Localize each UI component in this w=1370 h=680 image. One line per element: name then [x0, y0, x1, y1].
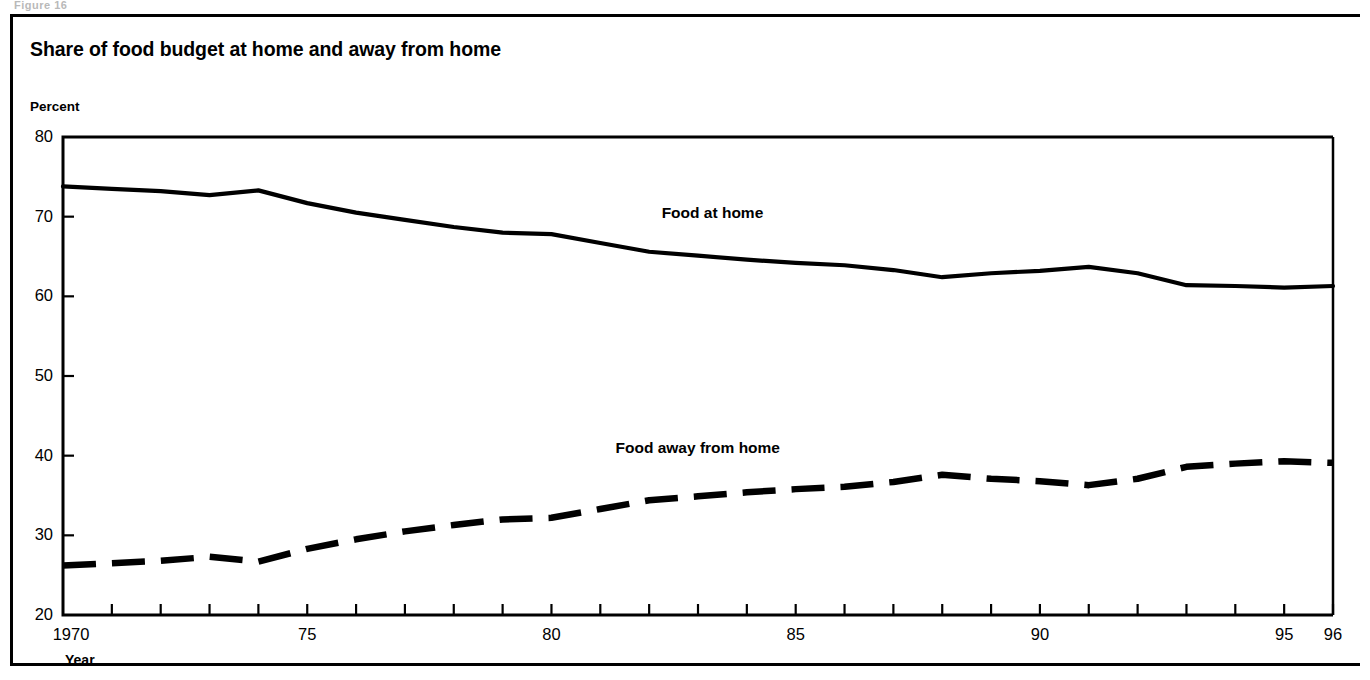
- y-axis-tick-label: 60: [11, 286, 53, 305]
- y-axis-tick-label: 70: [11, 207, 53, 226]
- y-axis-tick-label: 50: [11, 366, 53, 385]
- x-axis-title: Year: [65, 652, 95, 668]
- x-axis-tick-label: 75: [277, 625, 337, 644]
- x-axis-tick-label: 85: [766, 625, 826, 644]
- x-axis-tick-label: 1970: [41, 625, 101, 644]
- x-axis-tick-label: 90: [1010, 625, 1070, 644]
- series-layer: [63, 186, 1333, 565]
- y-axis-tick-label: 30: [11, 525, 53, 544]
- x-axis-tick-label: 80: [521, 625, 581, 644]
- series-line-1: [63, 461, 1333, 565]
- y-axis-tick-label: 20: [11, 605, 53, 624]
- chart-plot: [0, 0, 1370, 680]
- y-axis-tick-label: 40: [11, 446, 53, 465]
- series-label-0: Food at home: [662, 204, 764, 222]
- y-axis-tick-label: 80: [11, 127, 53, 146]
- x-axis-tick-label: 96: [1303, 625, 1363, 644]
- series-label-1: Food away from home: [616, 439, 781, 457]
- series-line-0: [63, 186, 1333, 287]
